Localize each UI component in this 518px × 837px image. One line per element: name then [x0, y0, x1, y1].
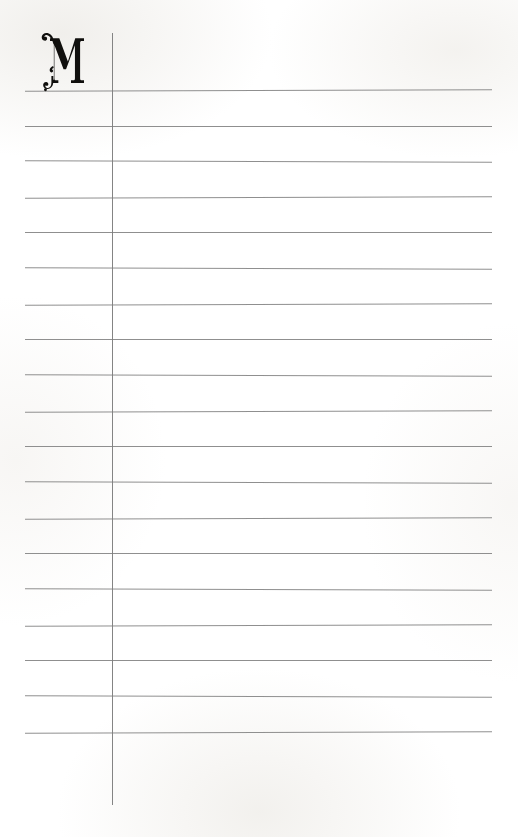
ornamental-drop-cap-m	[38, 30, 86, 91]
ruled-line	[25, 624, 492, 626]
ruled-line	[25, 588, 492, 590]
ruled-line	[25, 160, 492, 162]
ruled-line	[25, 660, 492, 661]
ruled-line	[25, 553, 492, 554]
ruled-line	[25, 410, 492, 412]
vertical-margin-rule	[112, 33, 113, 805]
ruled-line	[25, 267, 492, 269]
ruled-line	[25, 339, 492, 340]
notebook-page	[0, 0, 518, 837]
ruled-line	[25, 303, 492, 305]
ruled-line	[25, 517, 492, 519]
ruled-line	[25, 196, 492, 198]
ruled-line	[25, 89, 492, 91]
ruling-layer	[0, 0, 518, 837]
ruled-line	[25, 731, 492, 733]
ruled-line	[25, 695, 492, 697]
ruled-line	[25, 232, 492, 233]
ruled-line	[25, 481, 492, 483]
ruled-line	[25, 446, 492, 447]
ruled-line	[25, 126, 492, 127]
ruled-line	[25, 374, 492, 376]
